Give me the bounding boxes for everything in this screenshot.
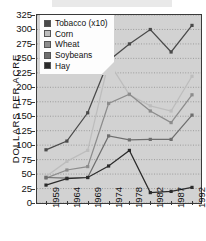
x-tick-label: 1982 [154, 187, 165, 208]
y-tick-mark [31, 174, 35, 175]
data-point [86, 111, 89, 114]
data-point [128, 93, 131, 96]
data-point [170, 138, 173, 141]
y-tick-label: 0 [0, 198, 32, 207]
legend-item[interactable]: Hay [44, 60, 108, 71]
data-point [190, 93, 193, 96]
x-tick-mark [46, 201, 47, 205]
y-tick-mark [31, 189, 35, 190]
x-tick-label: 1992 [196, 187, 206, 208]
y-axis-ticks: 3253002752502252001751501251007550250 [0, 14, 32, 204]
data-point [170, 109, 173, 112]
y-tick-mark [31, 145, 35, 146]
x-tick-label: 1978 [133, 187, 144, 208]
x-axis-ticks: 19591964196919741978198219871992 [36, 205, 202, 241]
data-point [107, 134, 110, 137]
data-point [65, 168, 68, 171]
y-tick-label: 300 [0, 24, 32, 33]
x-tick-mark [67, 201, 68, 205]
y-tick-label: 25 [0, 184, 32, 193]
legend-swatch-icon [44, 20, 51, 27]
data-point [149, 191, 152, 194]
chart-container: DOLLARS PER ACRE 32530027525022520017515… [0, 0, 206, 241]
legend-label: Soybeans [55, 50, 92, 60]
y-tick-label: 50 [0, 169, 32, 178]
y-tick-label: 100 [0, 140, 32, 149]
chart-legend: Tobacco (x10)CornWheatSoybeansHay [40, 15, 114, 74]
data-point [149, 104, 152, 107]
y-tick-mark [31, 29, 35, 30]
top-band [52, 0, 172, 7]
x-tick-mark [129, 201, 130, 205]
y-tick-label: 150 [0, 111, 32, 120]
legend-item[interactable]: Wheat [44, 39, 108, 50]
x-tick-mark [171, 201, 172, 205]
y-tick-mark [31, 73, 35, 74]
data-point [128, 42, 131, 45]
x-tick-mark [192, 201, 193, 205]
data-point [190, 186, 193, 189]
y-tick-label: 325 [0, 10, 32, 19]
x-tick-mark [109, 201, 110, 205]
x-tick-label: 1987 [175, 187, 186, 208]
y-tick-mark [31, 116, 35, 117]
data-point [170, 50, 173, 53]
data-point [170, 121, 173, 124]
data-point [44, 148, 47, 151]
y-tick-label: 125 [0, 126, 32, 135]
y-tick-mark [31, 44, 35, 45]
x-tick-label: 1974 [113, 187, 124, 208]
y-tick-label: 75 [0, 155, 32, 164]
y-tick-mark [31, 160, 35, 161]
data-point [44, 184, 47, 187]
data-point [149, 138, 152, 141]
legend-label: Hay [55, 61, 70, 71]
y-tick-mark [31, 87, 35, 88]
data-point [44, 176, 47, 179]
legend-label: Wheat [55, 39, 79, 49]
y-tick-label: 275 [0, 39, 32, 48]
data-point [65, 160, 68, 163]
x-tick-label: 1959 [50, 187, 61, 208]
legend-item[interactable]: Soybeans [44, 50, 108, 61]
data-point [190, 75, 193, 78]
data-point [149, 109, 152, 112]
legend-item[interactable]: Corn [44, 29, 108, 40]
data-point [65, 177, 68, 180]
y-tick-label: 175 [0, 97, 32, 106]
x-tick-mark [150, 201, 151, 205]
y-tick-label: 200 [0, 82, 32, 91]
legend-swatch-icon [44, 52, 51, 59]
x-tick-label: 1964 [71, 187, 82, 208]
x-tick-label: 1969 [92, 187, 103, 208]
data-point [86, 176, 89, 179]
series-line [46, 94, 192, 178]
y-tick-label: 225 [0, 68, 32, 77]
data-point [149, 28, 152, 31]
legend-item[interactable]: Tobacco (x10) [44, 18, 108, 29]
data-point [107, 164, 110, 167]
y-tick-mark [31, 58, 35, 59]
data-point [190, 24, 193, 27]
data-point [86, 149, 89, 152]
legend-corner-fold [101, 61, 115, 75]
data-point [128, 138, 131, 141]
data-point [65, 140, 68, 143]
y-tick-mark [31, 131, 35, 132]
data-point [128, 149, 131, 152]
y-tick-mark [31, 102, 35, 103]
y-tick-mark [31, 15, 35, 16]
x-tick-mark [88, 201, 89, 205]
legend-label: Tobacco (x10) [55, 18, 108, 28]
legend-swatch-icon [44, 41, 51, 48]
legend-swatch-icon [44, 30, 51, 37]
data-point [190, 114, 193, 117]
y-tick-label: 250 [0, 53, 32, 62]
data-point [86, 165, 89, 168]
data-point [170, 190, 173, 193]
legend-label: Corn [55, 29, 73, 39]
legend-swatch-icon [44, 62, 51, 69]
data-point [107, 102, 110, 105]
y-tick-mark [31, 203, 35, 204]
